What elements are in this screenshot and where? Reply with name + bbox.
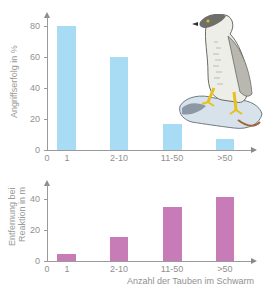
top-bar-over-50 xyxy=(216,139,234,150)
bottom-x-axis-title: Anzahl der Tauben im Schwarm xyxy=(127,276,254,286)
bottom-y-axis-title-line1: Entfernung bei xyxy=(7,187,17,246)
top-ytick xyxy=(44,88,48,89)
bottom-ytick-label: 20 xyxy=(22,225,40,235)
top-xtick-label: 1 xyxy=(47,153,87,163)
bottom-xtick-label: 11-50 xyxy=(152,264,192,274)
top-ytick-label: 80 xyxy=(22,21,40,31)
bottom-ytick xyxy=(44,199,48,200)
top-ytick xyxy=(44,57,48,58)
bottom-x-axis-arrow xyxy=(251,258,257,264)
top-ytick-label: 40 xyxy=(22,83,40,93)
top-xtick-label: 2-10 xyxy=(99,153,139,163)
bottom-xtick-label: >50 xyxy=(205,264,245,274)
bottom-bar-1 xyxy=(57,254,76,261)
top-ytick xyxy=(44,26,48,27)
top-x-axis-arrow xyxy=(251,147,257,153)
bottom-x-axis xyxy=(44,261,252,262)
bottom-ytick-label: 40 xyxy=(22,194,40,204)
bottom-bar-2-10 xyxy=(110,237,128,261)
top-xtick-label: 11-50 xyxy=(152,153,192,163)
bottom-ytick xyxy=(44,230,48,231)
top-ytick-label: 20 xyxy=(22,114,40,124)
bottom-bar-11-50 xyxy=(163,207,182,261)
top-ytick-label: 60 xyxy=(22,52,40,62)
top-bar-2-10 xyxy=(110,57,128,150)
top-y-axis xyxy=(47,16,48,151)
top-y-axis-title: Angriffserfolg in % xyxy=(9,45,19,118)
top-bar-1 xyxy=(57,26,76,150)
top-x-axis xyxy=(44,150,252,151)
bottom-xtick-label: 1 xyxy=(47,264,87,274)
bottom-y-axis xyxy=(47,184,48,262)
bottom-bar-over-50 xyxy=(216,197,234,261)
top-ytick xyxy=(44,119,48,120)
bottom-xtick-label: 2-10 xyxy=(99,264,139,274)
top-xtick-label: >50 xyxy=(205,153,245,163)
hawk-illustration xyxy=(178,8,266,134)
